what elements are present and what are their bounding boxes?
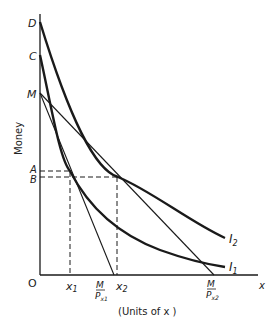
label-m-over-px1: M Px1	[95, 280, 108, 302]
label-m-over-px2: M Px2	[206, 279, 219, 301]
label-i1: I1	[229, 260, 238, 276]
budget-line-px2	[40, 93, 214, 275]
origin-label: O	[28, 277, 37, 290]
label-i2: I2	[229, 232, 238, 248]
y-axis-title: Money	[13, 122, 24, 155]
label-c: C	[29, 50, 37, 63]
svg-text:M: M	[96, 280, 104, 290]
x-axis-title: x	[258, 280, 265, 291]
label-b: B	[30, 174, 37, 185]
svg-text:Px1: Px1	[95, 291, 108, 302]
label-x2: x2	[115, 280, 128, 294]
label-x1: x1	[65, 280, 78, 294]
svg-text:M: M	[207, 279, 215, 289]
indifference-curve-i2	[40, 22, 225, 238]
x-axis-caption: (Units of x )	[118, 306, 177, 317]
indifference-curve-diagram: D C M A B Money O x1 x2 M Px1 M Px2 x (U…	[0, 0, 277, 329]
budget-line-px1	[40, 93, 114, 275]
label-d: D	[28, 17, 36, 30]
label-m: M	[27, 88, 37, 101]
svg-text:Px2: Px2	[206, 290, 219, 301]
